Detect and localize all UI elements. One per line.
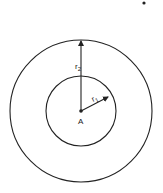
- label-r1: r1: [90, 93, 100, 105]
- stray-dot: [142, 1, 145, 4]
- label-center-a: A: [78, 117, 84, 126]
- center-point-a: [79, 109, 83, 113]
- concentric-circles-diagram: r2 r1 A: [0, 0, 163, 193]
